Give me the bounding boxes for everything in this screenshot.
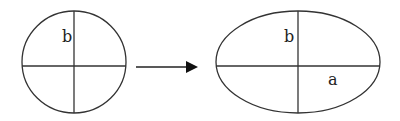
- circle-label-b: b: [62, 27, 72, 46]
- arrow-head-icon: [186, 61, 198, 73]
- circle-figure: b: [22, 11, 126, 113]
- diagram-canvas: b b a: [0, 0, 400, 121]
- ellipse-label-b: b: [284, 27, 294, 46]
- ellipse-label-a: a: [328, 70, 338, 89]
- ellipse-figure: b a: [216, 11, 380, 113]
- transform-arrow: [136, 61, 198, 73]
